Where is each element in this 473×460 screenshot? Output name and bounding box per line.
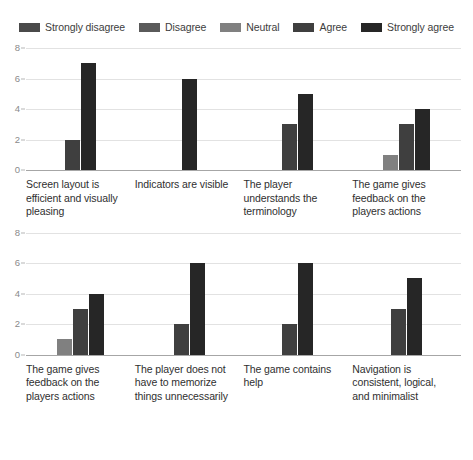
category-label: Navigation is consistent, logical, and m… <box>352 363 461 404</box>
y-axis-tick-label: 4 <box>15 289 20 299</box>
y-axis-tick-label: 0 <box>15 350 20 360</box>
legend-swatch-agree <box>293 23 314 32</box>
category-label: Indicators are visible <box>135 178 244 219</box>
legend-label-disagree: Disagree <box>165 21 206 33</box>
bar-group <box>135 48 244 170</box>
y-axis-tick-mark <box>21 139 25 140</box>
category-labels-top: Screen layout is efficient and visually … <box>26 171 461 219</box>
bar <box>182 79 197 171</box>
bar-group <box>135 233 244 355</box>
bar-group <box>352 48 461 170</box>
legend-label-strongly-agree: Strongly agree <box>387 21 454 33</box>
bar <box>298 263 313 355</box>
y-axis-tick-label: 2 <box>15 135 20 145</box>
category-label: The game gives feedback on the players a… <box>26 363 135 404</box>
y-axis-tick-mark <box>21 293 25 294</box>
category-label: The game gives feedback on the players a… <box>352 178 461 219</box>
category-label: Screen layout is efficient and visually … <box>26 178 135 219</box>
category-label: The game contains help <box>244 363 353 404</box>
bar-group <box>244 48 353 170</box>
y-axis-tick-label: 6 <box>15 74 20 84</box>
bar <box>73 309 88 355</box>
bar-group <box>352 233 461 355</box>
footer-caption <box>0 450 473 460</box>
plot-area-top: 02468 <box>26 48 461 171</box>
bar <box>407 278 422 354</box>
legend-item-neutral: Neutral <box>220 21 279 33</box>
bar <box>415 109 430 170</box>
bar <box>89 294 104 355</box>
bar <box>298 94 313 170</box>
bar <box>391 309 406 355</box>
bar <box>383 155 398 170</box>
y-axis-tick-label: 8 <box>15 228 20 238</box>
y-axis-tick-mark <box>21 324 25 325</box>
bar <box>174 324 189 355</box>
bar <box>65 140 80 171</box>
y-axis-tick-label: 0 <box>15 165 20 175</box>
legend-label-strongly-disagree: Strongly disagree <box>45 21 125 33</box>
bar-groups-bottom <box>26 233 461 355</box>
category-label: The player understands the terminology <box>244 178 353 219</box>
bar-group <box>26 233 135 355</box>
bar <box>81 63 96 170</box>
y-axis-tick-label: 6 <box>15 258 20 268</box>
y-axis-tick-mark <box>21 170 25 171</box>
legend-item-strongly-disagree: Strongly disagree <box>19 21 125 33</box>
category-labels-bottom: The game gives feedback on the players a… <box>26 356 461 404</box>
legend-item-disagree: Disagree <box>139 21 206 33</box>
y-axis-tick-label: 4 <box>15 104 20 114</box>
legend-label-neutral: Neutral <box>246 21 279 33</box>
bar-group <box>244 233 353 355</box>
y-axis-tick-mark <box>21 109 25 110</box>
y-axis-tick-mark <box>21 232 25 233</box>
chart-legend: Strongly disagree Disagree Neutral Agree… <box>0 0 473 40</box>
legend-swatch-strongly-disagree <box>19 23 40 32</box>
bar <box>190 263 205 355</box>
bar-groups-top <box>26 48 461 170</box>
bar <box>399 124 414 170</box>
bar-group <box>26 48 135 170</box>
legend-swatch-disagree <box>139 23 160 32</box>
plot-area-bottom: 02468 <box>26 233 461 356</box>
y-axis-tick-mark <box>21 78 25 79</box>
legend-label-agree: Agree <box>319 21 347 33</box>
bar-chart-top: 02468 Screen layout is efficient and vis… <box>0 48 473 219</box>
category-label: The player does not have to memorize thi… <box>135 363 244 404</box>
y-axis-tick-mark <box>21 354 25 355</box>
bar-chart-bottom: 02468 The game gives feedback on the pla… <box>0 233 473 404</box>
y-axis-tick-mark <box>21 263 25 264</box>
bar <box>282 124 297 170</box>
legend-item-strongly-agree: Strongly agree <box>361 21 454 33</box>
legend-swatch-strongly-agree <box>361 23 382 32</box>
bar <box>57 339 72 354</box>
legend-item-agree: Agree <box>293 21 347 33</box>
y-axis-tick-label: 2 <box>15 319 20 329</box>
y-axis-tick-mark <box>21 48 25 49</box>
bar <box>282 324 297 355</box>
y-axis-tick-label: 8 <box>15 43 20 53</box>
legend-swatch-neutral <box>220 23 241 32</box>
